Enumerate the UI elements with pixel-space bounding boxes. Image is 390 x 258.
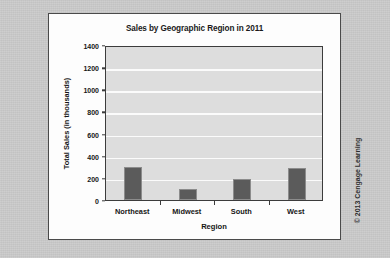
x-axis-tick-mark [269, 201, 270, 205]
bar-west [288, 168, 306, 200]
y-axis-tick-label: 1200 [73, 65, 99, 72]
y-axis-title-label: Total Sales (in thousands) [63, 78, 72, 169]
plot-area [105, 46, 323, 201]
x-axis-title: Region [105, 222, 323, 231]
bar-midwest [179, 189, 197, 200]
y-axis-tick-label: 400 [73, 153, 99, 160]
copyright-credit: © 2013 Cengage Learning [352, 128, 364, 232]
x-axis-tick-label: Midwest [172, 207, 201, 216]
y-axis-tick-label: 1000 [73, 87, 99, 94]
copyright-credit-label: © 2013 Cengage Learning [355, 137, 362, 223]
gridline [106, 69, 322, 70]
bar-northeast [124, 167, 142, 200]
y-axis-tick-label: 200 [73, 175, 99, 182]
x-axis-tick-mark [160, 201, 161, 205]
gridline [106, 113, 322, 114]
y-axis-tick-label: 800 [73, 109, 99, 116]
x-axis-tick-label: Northeast [115, 207, 150, 216]
x-axis-tick-label: South [231, 207, 252, 216]
figure-panel: Sales by Geographic Region in 2011 Total… [48, 13, 341, 240]
x-axis-tick-label: West [287, 207, 305, 216]
x-axis-tick-mark [214, 201, 215, 205]
y-axis-title: Total Sales (in thousands) [61, 46, 73, 201]
chart-title: Sales by Geographic Region in 2011 [49, 24, 340, 33]
bar-south [233, 179, 251, 200]
gridline [106, 91, 322, 92]
gridline [106, 136, 322, 137]
gridline [106, 158, 322, 159]
y-axis-tick-label: 600 [73, 131, 99, 138]
y-axis-tick-label: 0 [73, 198, 99, 205]
y-axis-tick-label: 1400 [73, 43, 99, 50]
